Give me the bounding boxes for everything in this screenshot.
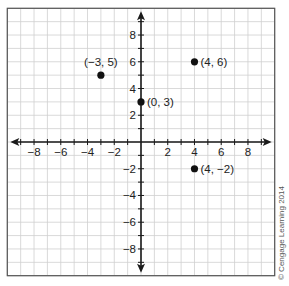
point-label: (0, 3) bbox=[147, 96, 174, 108]
y-tick-label: −6 bbox=[123, 216, 136, 228]
x-tick-label: 4 bbox=[191, 146, 198, 158]
point-marker bbox=[191, 58, 198, 65]
x-tick-label: −2 bbox=[108, 146, 121, 158]
y-tick-label: −8 bbox=[123, 243, 136, 255]
x-tick-label: 8 bbox=[245, 146, 251, 158]
x-tick-label: −8 bbox=[27, 146, 40, 158]
x-tick-label: −4 bbox=[81, 146, 95, 158]
data-point: (4, 6) bbox=[191, 56, 228, 68]
axes bbox=[10, 11, 271, 272]
point-label: (4, −2) bbox=[200, 163, 234, 175]
point-marker bbox=[97, 72, 104, 79]
y-tick-label: 8 bbox=[130, 29, 136, 41]
x-tick-label: 6 bbox=[218, 146, 224, 158]
point-label: (4, 6) bbox=[200, 56, 227, 68]
x-tick-label: 2 bbox=[165, 146, 171, 158]
copyright-notice: © Cengage Learning 2014 bbox=[277, 186, 286, 280]
x-tick-label: −6 bbox=[54, 146, 67, 158]
data-point: (0, 3) bbox=[137, 96, 174, 108]
y-tick-label: 6 bbox=[130, 56, 136, 68]
point-marker bbox=[137, 98, 144, 105]
y-tick-label: −4 bbox=[123, 189, 137, 201]
data-point: (4, −2) bbox=[191, 163, 234, 175]
point-label: (−3, 5) bbox=[84, 56, 118, 68]
y-tick-label: 4 bbox=[130, 83, 137, 95]
y-tick-label: 2 bbox=[130, 109, 136, 121]
coordinate-plane: −8−6−4−224688642−2−4−6−8 (−3, 5)(0, 3)(4… bbox=[0, 0, 289, 286]
y-tick-label: −2 bbox=[123, 163, 136, 175]
point-marker bbox=[191, 165, 198, 172]
